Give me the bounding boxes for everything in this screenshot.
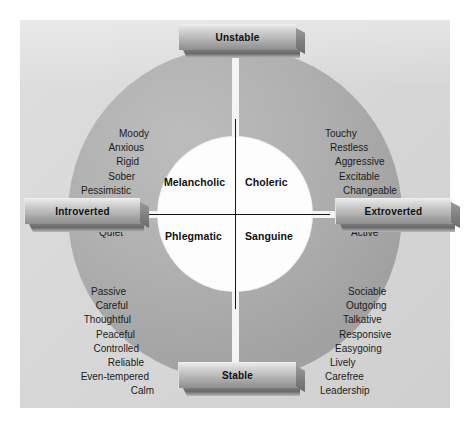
axis-banner-introverted: Introverted	[24, 198, 140, 224]
quadrant-label-melancholic: Melancholic	[164, 176, 225, 188]
trait-list-phlegmatic: Passive Careful Thoughtful Peaceful Cont…	[81, 285, 152, 399]
trait-item: Talkative	[343, 313, 391, 327]
trait-item: Aggressive	[335, 155, 397, 169]
trait-item: Pessimistic	[76, 184, 131, 198]
trait-item: Responsive	[339, 328, 391, 342]
trait-item: Thoughtful	[81, 313, 131, 327]
trait-item: Rigid	[76, 155, 139, 169]
trait-item: Even-tempered	[81, 370, 149, 384]
trait-item: Passive	[81, 285, 126, 299]
trait-item: Peaceful	[81, 328, 135, 342]
quadrant-label-choleric: Choleric	[245, 176, 288, 188]
trait-item: Touchy	[325, 127, 397, 141]
trait-item: Outgoing	[346, 299, 391, 313]
trait-item: Changeable	[343, 184, 397, 198]
trait-item: Anxious	[76, 141, 144, 155]
quadrant-label-sanguine: Sanguine	[245, 230, 293, 242]
trait-item: Leadership	[320, 384, 391, 398]
trait-list-sanguine: Sociable Outgoing Talkative Responsive E…	[322, 285, 391, 399]
trait-item: Controlled	[81, 342, 139, 356]
trait-item: Reliable	[81, 356, 144, 370]
trait-item: Careful	[81, 299, 128, 313]
trait-item: Sociable	[348, 285, 391, 299]
trait-item: Carefree	[325, 370, 391, 384]
axis-banner-unstable: Unstable	[178, 24, 296, 50]
quadrant-label-phlegmatic: Phlegmatic	[165, 230, 222, 242]
trait-item: Lively	[330, 356, 391, 370]
personality-circumplex-diagram: Melancholic Choleric Phlegmatic Sanguine…	[0, 0, 469, 425]
trait-item: Excitable	[339, 170, 397, 184]
trait-item: Restless	[330, 141, 397, 155]
trait-item: Calm	[81, 384, 154, 398]
horizontal-axis-line	[140, 214, 330, 216]
axis-banner-stable: Stable	[178, 362, 296, 388]
trait-item: Sober	[76, 170, 135, 184]
trait-item: Moody	[76, 127, 149, 141]
trait-item: Easygoing	[335, 342, 391, 356]
axis-banner-extroverted: Extroverted	[335, 198, 451, 224]
